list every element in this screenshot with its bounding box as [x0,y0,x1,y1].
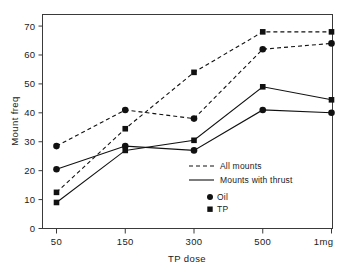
data-point-square [191,138,197,144]
data-point-circle [191,147,198,154]
legend-circle-marker-icon [207,194,213,200]
legend-label-all-mounts: All mounts [220,161,262,171]
data-point-square [122,148,128,154]
x-axis-tick-label: 500 [254,236,271,247]
legend-label-mounts-with-thrust: Mounts with thrust [220,175,293,185]
chart-figure: 010203040506070 501503005001mg Mount fre… [0,0,357,272]
data-point-circle [328,110,335,117]
y-axis-tick-label: 40 [24,107,35,118]
x-axis-tick-label: 1mg [314,236,334,247]
data-point-circle [53,143,60,150]
chart-background [0,0,357,272]
x-axis-tick-label: 150 [117,236,134,247]
y-axis-tick-label: 30 [24,136,35,147]
legend-label-tp: TP [217,204,228,214]
mount-frequency-line-chart: 010203040506070 501503005001mg Mount fre… [0,0,357,272]
data-point-square [54,200,60,206]
data-point-square [122,126,128,132]
data-point-circle [53,166,60,173]
data-point-circle [328,40,335,47]
y-axis-tick-label: 60 [24,49,35,60]
data-point-circle [191,115,198,122]
y-axis-tick-label: 20 [24,165,35,176]
data-point-square [329,29,335,35]
data-point-circle [122,107,129,114]
y-axis-tick-label: 10 [24,194,35,205]
data-point-square [329,97,335,103]
y-axis-tick-label: 0 [30,223,36,234]
x-axis-title: TP dose [168,253,206,264]
y-axis-title: Mount freq [9,96,20,145]
data-point-square [191,70,197,76]
x-axis-tick-label: 300 [185,236,202,247]
data-point-circle [259,107,266,114]
data-point-square [54,190,60,196]
data-point-square [260,29,266,35]
legend-square-marker-icon [207,207,212,212]
legend-label-oil: Oil [217,192,228,202]
data-point-circle [259,46,266,53]
y-axis-tick-label: 50 [24,78,35,89]
data-point-square [260,84,266,90]
x-axis-tick-label: 50 [51,236,62,247]
y-axis-tick-label: 70 [24,21,35,32]
